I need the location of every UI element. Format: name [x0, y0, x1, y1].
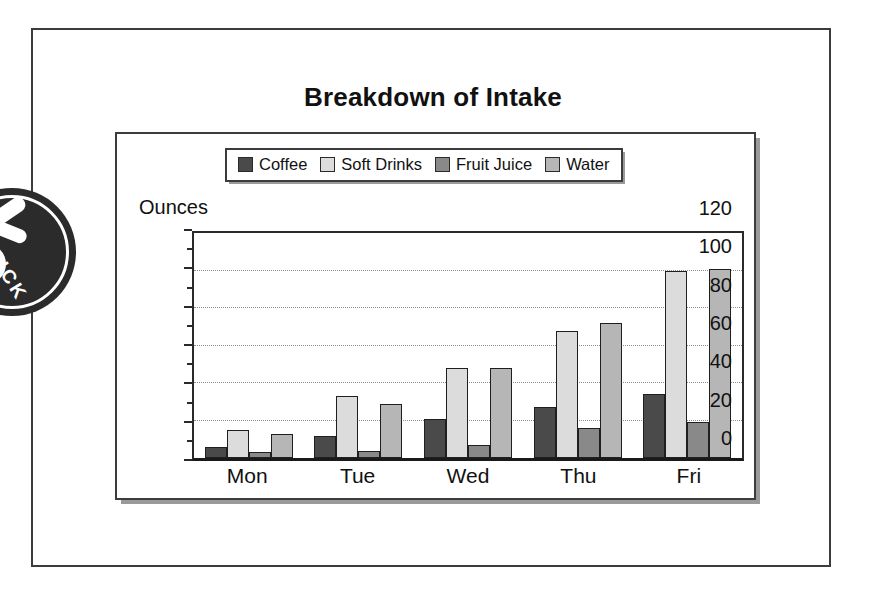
bar-coffee-mon[interactable]: [205, 447, 227, 458]
bar-coffee-fri[interactable]: [643, 394, 665, 458]
bar-group-mon: [194, 233, 304, 458]
bar-coffee-wed[interactable]: [424, 419, 446, 458]
bar-coffee-thu[interactable]: [534, 407, 556, 458]
chart-legend: CoffeeSoft DrinksFruit JuiceWater: [225, 148, 623, 182]
legend-swatch-icon: [320, 157, 335, 172]
y-tick-label: 100: [699, 235, 732, 258]
bar-soft-drinks-thu[interactable]: [556, 331, 578, 459]
y-axis-title: Ounces: [139, 196, 208, 219]
bar-group-tue: [304, 233, 414, 458]
x-axis-labels: MonTueWedThuFri: [192, 464, 744, 488]
x-axis-label-fri: Fri: [634, 464, 744, 488]
y-tick-label: 120: [699, 197, 732, 220]
bar-water-wed[interactable]: [490, 368, 512, 458]
y-tick-minor: [187, 287, 192, 289]
x-axis-label-tue: Tue: [302, 464, 412, 488]
bar-group-fri: [632, 233, 742, 458]
bar-soft-drinks-wed[interactable]: [446, 368, 468, 458]
legend-label: Water: [566, 155, 609, 174]
bar-soft-drinks-mon[interactable]: [227, 430, 249, 458]
bar-fruit-juice-wed[interactable]: [468, 445, 490, 458]
legend-label: Coffee: [259, 155, 307, 174]
y-tick-major: [184, 421, 192, 423]
y-tick-minor: [187, 440, 192, 442]
bar-water-tue[interactable]: [380, 404, 402, 458]
plot-area: [192, 231, 744, 461]
bar-soft-drinks-tue[interactable]: [336, 396, 358, 458]
bar-water-mon[interactable]: [271, 434, 293, 458]
y-tick-minor: [187, 363, 192, 365]
legend-swatch-icon: [238, 157, 253, 172]
plot-wrapper: 020406080100120: [192, 231, 744, 461]
bars-layer: [194, 233, 742, 458]
legend-swatch-icon: [545, 157, 560, 172]
legend-label: Fruit Juice: [456, 155, 532, 174]
legend-item-soft-drinks: Soft Drinks: [320, 155, 422, 174]
bar-group-wed: [413, 233, 523, 458]
legend-item-fruit-juice: Fruit Juice: [435, 155, 532, 174]
y-tick-label: 40: [710, 350, 732, 373]
page-frame: Breakdown of Intake CoffeeSoft DrinksFru…: [31, 28, 831, 567]
bar-fruit-juice-mon[interactable]: [249, 452, 271, 458]
bar-coffee-tue[interactable]: [314, 436, 336, 459]
y-tick-minor: [187, 402, 192, 404]
bar-fruit-juice-tue[interactable]: [358, 451, 380, 459]
bar-fruit-juice-thu[interactable]: [578, 428, 600, 458]
legend-item-coffee: Coffee: [238, 155, 307, 174]
bar-water-thu[interactable]: [600, 323, 622, 458]
x-axis-label-thu: Thu: [523, 464, 633, 488]
chart-panel: CoffeeSoft DrinksFruit JuiceWater Ounces…: [115, 132, 756, 500]
legend-item-water: Water: [545, 155, 609, 174]
y-tick-minor: [187, 248, 192, 250]
y-tick-major: [184, 267, 192, 269]
y-tick-label: 80: [710, 273, 732, 296]
y-tick-minor: [187, 325, 192, 327]
chart-title: Breakdown of Intake: [33, 82, 833, 113]
legend-label: Soft Drinks: [341, 155, 422, 174]
bar-group-thu: [523, 233, 633, 458]
y-tick-major: [184, 229, 192, 231]
y-tick-label: 20: [710, 388, 732, 411]
y-tick-major: [184, 459, 192, 461]
bar-soft-drinks-fri[interactable]: [665, 271, 687, 459]
y-tick-major: [184, 382, 192, 384]
y-tick-major: [184, 306, 192, 308]
y-tick-label: 0: [721, 427, 732, 450]
y-tick-label: 60: [710, 312, 732, 335]
bar-fruit-juice-fri[interactable]: [687, 422, 709, 458]
x-axis-label-wed: Wed: [413, 464, 523, 488]
x-axis-label-mon: Mon: [192, 464, 302, 488]
legend-swatch-icon: [435, 157, 450, 172]
y-tick-major: [184, 344, 192, 346]
